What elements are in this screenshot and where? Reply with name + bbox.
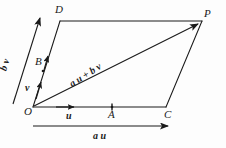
vector-arrow-segment-B (44, 56, 48, 70)
side-CP (166, 21, 202, 107)
vector-label-au: a u (93, 131, 106, 141)
point-B-marker (42, 70, 45, 73)
vertex-label-O: O (24, 106, 32, 117)
vertex-label-C: C (164, 109, 171, 120)
figure-canvas (0, 0, 226, 148)
vector-parallelogram-figure: O D P C A B u v b v a u a u + b v (0, 0, 226, 148)
vertex-label-B: B (35, 56, 42, 67)
vertex-label-D: D (55, 4, 63, 15)
vector-label-u: u (66, 111, 72, 121)
vector-arrow-v (36, 82, 41, 99)
vertex-label-A: A (108, 109, 115, 120)
vertex-label-P: P (204, 8, 211, 19)
vector-label-v: v (25, 83, 29, 93)
vector-arrow-au-plus-bv (34, 24, 198, 106)
